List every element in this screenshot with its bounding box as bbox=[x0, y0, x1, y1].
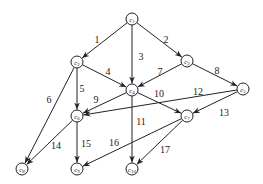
edge-labels-layer: 1234567891011121314151617 bbox=[47, 34, 230, 155]
node-c1: c1 bbox=[126, 13, 138, 25]
edge-label: 12 bbox=[193, 86, 203, 97]
arrow-line bbox=[25, 67, 74, 163]
edge-label: 17 bbox=[160, 144, 170, 155]
edge-c1-c2 bbox=[82, 23, 127, 58]
edge-label: 1 bbox=[95, 34, 100, 45]
node-c9: c9 bbox=[71, 163, 83, 175]
edge-label: 7 bbox=[158, 66, 163, 77]
node-c3: c3 bbox=[181, 55, 193, 67]
edge-c6-c8 bbox=[27, 120, 73, 164]
edge-label: 14 bbox=[51, 140, 61, 151]
edge-c2-c4 bbox=[82, 65, 126, 87]
edge-label: 15 bbox=[81, 138, 91, 149]
edge-label: 6 bbox=[47, 94, 52, 105]
edge-label: 16 bbox=[109, 137, 119, 148]
edge-label: 9 bbox=[94, 94, 99, 105]
edge-label: 13 bbox=[219, 107, 229, 118]
edge-label: 10 bbox=[154, 88, 164, 99]
directed-graph-diagram: 1234567891011121314151617 c1c2c3c4c5c6c7… bbox=[0, 0, 263, 184]
arrow-line bbox=[82, 23, 127, 58]
edge-c2-c8 bbox=[25, 67, 74, 163]
arrow-line bbox=[137, 23, 182, 57]
node-c2: c2 bbox=[71, 56, 83, 68]
edge-c1-c3 bbox=[137, 23, 182, 57]
edge-label: 5 bbox=[80, 83, 85, 94]
edge-label: 3 bbox=[139, 51, 144, 62]
node-c4: c4 bbox=[126, 84, 138, 96]
arrow-line bbox=[27, 120, 73, 164]
node-c8: c8 bbox=[16, 163, 28, 175]
edge-label: 11 bbox=[136, 116, 146, 127]
arrow-line bbox=[82, 65, 126, 87]
node-c5: c5 bbox=[237, 83, 249, 95]
arrow-line bbox=[83, 93, 127, 114]
edge-label: 2 bbox=[164, 34, 169, 45]
node-c6: c6 bbox=[71, 110, 83, 122]
node-c7: c7 bbox=[181, 110, 193, 122]
node-c10: c10 bbox=[126, 163, 138, 175]
edge-c4-c6 bbox=[83, 93, 127, 114]
edge-label: 8 bbox=[215, 65, 220, 76]
edge-label: 4 bbox=[106, 66, 111, 77]
